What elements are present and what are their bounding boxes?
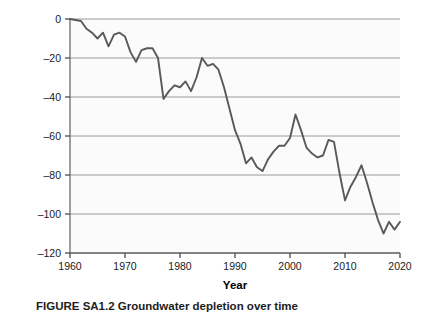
x-tick-label: 1960 <box>58 260 82 272</box>
x-tick-label: 1990 <box>223 260 247 272</box>
y-tick-label: –120 <box>38 247 62 259</box>
y-tick-label: –20 <box>43 52 61 64</box>
figure-caption: FIGURE SA1.2 Groundwater depletion over … <box>36 300 421 312</box>
x-tick-label: 2000 <box>278 260 302 272</box>
y-tick-label: –80 <box>43 169 61 181</box>
y-tick-label: –100 <box>38 208 62 220</box>
y-tick-label: 0 <box>55 13 61 25</box>
x-tick-label: 2020 <box>388 260 412 272</box>
y-tick-label: –60 <box>43 130 61 142</box>
x-axis-ticks: 1960197019801990200020102020 <box>58 253 412 272</box>
x-tick-label: 2010 <box>333 260 357 272</box>
line-chart-plot: 0–20–40–60–80–100–120 196019701980199020… <box>0 0 421 312</box>
y-tick-label: –40 <box>43 91 61 103</box>
x-tick-label: 1970 <box>113 260 137 272</box>
figure-container: Cumulative groundwater loss (km3) 0–20–4… <box>0 0 421 312</box>
y-axis-ticks: 0–20–40–60–80–100–120 <box>38 13 70 259</box>
x-axis-title: Year <box>70 279 400 291</box>
x-tick-label: 1980 <box>168 260 192 272</box>
